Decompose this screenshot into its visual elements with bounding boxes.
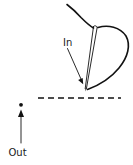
thread-tail-upper [67,5,94,29]
exit-point-dot [19,103,23,107]
needle-point-tip [85,89,86,92]
needle-eye-cap [94,26,98,27]
out-label: Out [9,147,27,158]
needle-diagram-figure: In Out [0,0,133,165]
thread-right-loop [88,26,129,89]
out-arrowhead-icon [18,110,24,118]
in-label: In [63,37,72,48]
in-leader-line [68,49,82,80]
in-arrowhead-icon [78,78,83,84]
diagram-canvas: In Out [0,0,133,165]
